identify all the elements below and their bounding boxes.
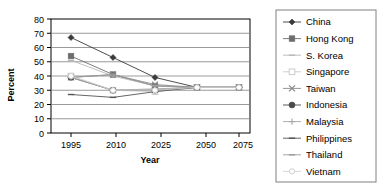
y-tick-label: 70 <box>34 29 44 39</box>
legend-label: Singapore <box>306 66 349 77</box>
legend-marker-filled-circle-icon <box>289 102 295 108</box>
y-axis-ticks <box>47 19 51 133</box>
x-tick-label: 1995 <box>61 140 81 150</box>
x-axis-ticks <box>71 133 239 137</box>
data-point <box>68 73 73 78</box>
y-axis-title-text: Percent <box>6 68 16 101</box>
legend-label: Taiwan <box>306 83 336 94</box>
legend-label: China <box>306 16 332 27</box>
y-tick-label: 60 <box>34 43 44 53</box>
chart-figure: Percent 80 70 <box>0 0 380 190</box>
chart-canvas: Percent 80 70 <box>0 0 380 190</box>
legend-label: Malaysia <box>306 116 344 127</box>
y-tick-label: 30 <box>34 86 44 96</box>
legend-label: Indonesia <box>306 99 348 110</box>
y-axis-title: Percent <box>6 68 16 101</box>
legend-label: Vietnam <box>306 166 341 177</box>
x-tick-label: 2050 <box>196 140 216 150</box>
y-tick-label: 50 <box>34 57 44 67</box>
data-point <box>236 85 241 90</box>
legend-marker-dot-icon <box>289 169 294 174</box>
data-point <box>110 88 115 93</box>
y-tick-label: 20 <box>34 100 44 110</box>
x-axis-tick-labels: 1995 2010 2025 2050 2075 <box>61 140 253 150</box>
legend-label: Philippines <box>306 133 352 144</box>
legend-label: Thailand <box>306 149 342 160</box>
y-tick-label: 0 <box>39 129 44 139</box>
y-tick-label: 80 <box>34 15 44 25</box>
x-tick-label: 2025 <box>151 140 171 150</box>
legend-label: Hong Kong <box>306 33 354 44</box>
y-axis-tick-labels: 80 70 60 50 40 30 20 10 0 <box>34 15 44 139</box>
data-point <box>68 53 74 59</box>
legend-label: S. Korea <box>306 50 344 61</box>
x-tick-label: 2075 <box>233 140 253 150</box>
y-tick-label: 10 <box>34 114 44 124</box>
legend-marker-open-square-icon <box>289 69 295 75</box>
x-tick-label: 2010 <box>106 140 126 150</box>
x-axis-title-text: Year <box>140 155 160 165</box>
data-point <box>194 85 199 90</box>
legend-marker-filled-square-icon <box>289 36 295 42</box>
y-tick-label: 40 <box>34 72 44 82</box>
data-point <box>152 88 157 93</box>
